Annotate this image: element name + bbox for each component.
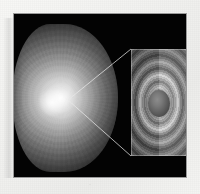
figure-frame bbox=[0, 0, 200, 194]
hemisphere-focal-hotspot bbox=[37, 88, 67, 118]
plot-canvas[interactable] bbox=[13, 13, 187, 178]
hemisphere-render[interactable] bbox=[13, 24, 118, 172]
hemisphere-cut-face bbox=[13, 30, 31, 166]
magnified-inset-panel[interactable] bbox=[131, 49, 187, 156]
